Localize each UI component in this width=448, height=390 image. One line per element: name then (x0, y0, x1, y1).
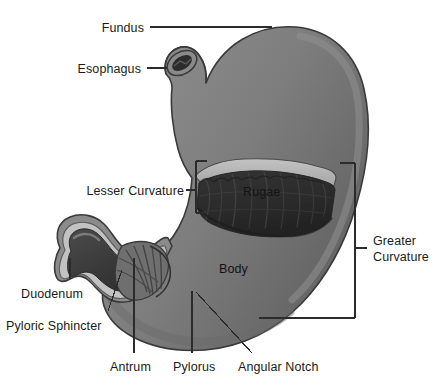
label-angular-notch: Angular Notch (238, 360, 319, 374)
label-greater-curvature-line1: Greater (373, 234, 429, 250)
label-pylorus: Pylorus (173, 360, 215, 374)
stomach-diagram-figure: Fundus Esophagus Lesser Curvature Greate… (0, 0, 448, 390)
label-duodenum: Duodenum (21, 287, 83, 301)
label-body: Body (219, 262, 248, 276)
label-esophagus: Esophagus (40, 62, 141, 76)
label-rugae: Rugae (243, 185, 280, 199)
label-lesser-curvature: Lesser Curvature (64, 184, 184, 198)
label-fundus: Fundus (60, 21, 144, 35)
pyloric-sphincter-group (115, 242, 170, 301)
label-antrum: Antrum (110, 360, 151, 374)
label-greater-curvature: Greater Curvature (373, 234, 429, 265)
label-pyloric-sphincter: Pyloric Sphincter (6, 319, 102, 333)
label-greater-curvature-line2: Curvature (373, 250, 429, 266)
